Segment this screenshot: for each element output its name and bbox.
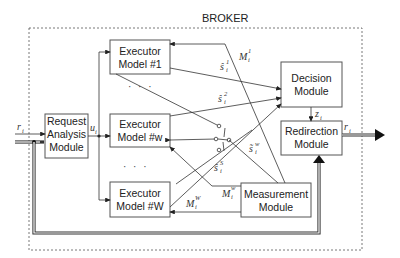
input-signal: r i xyxy=(15,121,45,144)
svg-text:i: i xyxy=(231,193,233,200)
decision-module: Decision Module xyxy=(281,62,342,107)
svg-text:W: W xyxy=(195,194,201,201)
label-sS: ŝ xyxy=(214,162,218,173)
broker-title: BROKER xyxy=(202,12,249,24)
svg-text:i: i xyxy=(248,56,250,63)
label-Mw: M xyxy=(221,188,231,199)
label-s2: ŝ xyxy=(218,93,222,104)
ellipsis-bottom: · · · xyxy=(123,161,149,172)
Mw-line xyxy=(170,147,241,186)
svg-text:i: i xyxy=(349,127,351,134)
svg-text:Executor: Executor xyxy=(119,45,161,57)
executor-model-w: Executor Model #w xyxy=(110,114,170,147)
svg-text:Module: Module xyxy=(49,141,84,153)
svg-text:Redirection: Redirection xyxy=(285,125,338,137)
redirection-module: Redirection Module xyxy=(281,121,342,155)
svg-text:Module: Module xyxy=(294,138,329,150)
svg-text:Model #W: Model #W xyxy=(116,200,163,212)
label-sw: s̃ xyxy=(249,143,253,154)
svg-text:w: w xyxy=(255,140,260,147)
svg-text:Executor: Executor xyxy=(119,118,161,130)
label-M1: M xyxy=(238,51,248,62)
svg-text:i: i xyxy=(22,127,24,134)
label-MW: M xyxy=(185,198,195,209)
sw-line xyxy=(229,140,278,183)
broker-diagram: BROKER Request Analysis Module Executor … xyxy=(0,0,400,258)
svg-text:S: S xyxy=(220,159,224,166)
svg-text:r: r xyxy=(17,121,21,132)
svg-text:Executor: Executor xyxy=(119,187,161,199)
svg-text:Measurement: Measurement xyxy=(244,188,308,200)
measurement-module: Measurement Module xyxy=(241,183,311,217)
svg-text:i: i xyxy=(220,167,222,174)
svg-text:Analysis: Analysis xyxy=(47,128,86,140)
u-signal: u i xyxy=(88,52,110,200)
svg-text:Module: Module xyxy=(294,85,329,97)
svg-text:1: 1 xyxy=(226,58,229,65)
svg-text:Request: Request xyxy=(47,115,86,127)
svg-text:i: i xyxy=(195,203,197,210)
label-z: z xyxy=(314,108,319,119)
output-signal: r i xyxy=(342,121,385,141)
svg-text:w: w xyxy=(231,184,236,191)
request-analysis-module: Request Analysis Module xyxy=(45,114,88,158)
svg-text:2: 2 xyxy=(224,90,228,97)
executor-model-1: Executor Model #1 xyxy=(110,40,170,74)
svg-text:Module: Module xyxy=(259,201,294,213)
svg-text:i: i xyxy=(95,128,97,135)
svg-text:i: i xyxy=(320,114,322,121)
svg-text:Model #1: Model #1 xyxy=(118,58,161,70)
label-s1: ŝ xyxy=(220,61,224,72)
svg-text:i: i xyxy=(226,66,228,73)
svg-text:i: i xyxy=(255,148,257,155)
svg-text:1: 1 xyxy=(248,47,251,54)
svg-text:r: r xyxy=(344,121,348,132)
svg-text:Decision: Decision xyxy=(291,72,331,84)
svg-text:Model #w: Model #w xyxy=(118,131,163,143)
executor-model-W: Executor Model #W xyxy=(110,182,170,217)
svg-text:i: i xyxy=(224,98,226,105)
